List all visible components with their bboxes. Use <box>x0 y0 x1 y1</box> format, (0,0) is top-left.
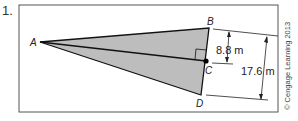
measure-bc: 8.8 m <box>216 44 244 56</box>
label-c: C <box>205 65 213 76</box>
kite-triangle-diagram: A B C D 8.8 m 17.6 m <box>0 0 298 121</box>
measure-bd: 17.6 m <box>241 65 275 77</box>
triangle-abd <box>40 28 209 95</box>
label-a: A <box>29 37 37 48</box>
arrow-up-icon <box>227 31 231 37</box>
copyright-notice: © Cengage Learning 2013 <box>283 22 292 110</box>
extension-line-d <box>206 95 268 100</box>
arrow-up-icon <box>264 36 268 43</box>
label-d: D <box>196 98 203 109</box>
extension-line-b <box>213 29 278 36</box>
label-b: B <box>207 16 214 27</box>
arrow-down-icon <box>225 57 229 63</box>
point-c-dot <box>203 58 208 63</box>
extension-line-c <box>212 63 233 64</box>
